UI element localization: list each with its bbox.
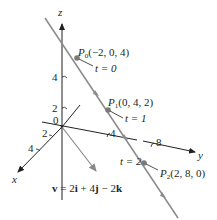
p1-label: P1(0, 4, 2) <box>108 97 153 110</box>
p0-t-label: t = 0 <box>95 63 116 74</box>
x-axis-label: x <box>12 174 17 185</box>
p0-label: P0(−2, 0, 4) <box>78 47 129 60</box>
z-tick-2: 2 <box>52 103 58 114</box>
point-p2 <box>141 160 147 166</box>
origin-label: 0 <box>53 115 59 126</box>
p2-t-label: t = 2 <box>120 156 141 167</box>
vector-v-arrow <box>62 127 96 171</box>
p2-label: P2(2, 8, 0) <box>160 168 205 181</box>
x-tick-2: 2 <box>42 128 48 139</box>
vector-v-label: v = 2i + 4j − 2k <box>52 183 122 194</box>
line-in-space-diagram: z x y 0 4 2 2 4 4 8 P0(−2, 0, 4) t = 0 P… <box>0 0 217 220</box>
z-axis-label: z <box>58 7 62 18</box>
y-axis-label: y <box>198 150 203 161</box>
p1-t-label: t = 1 <box>125 113 146 124</box>
y-tick-4: 4 <box>110 128 116 139</box>
x-tick-4: 4 <box>28 143 34 154</box>
y-axis <box>42 122 195 152</box>
z-tick-4: 4 <box>52 72 58 83</box>
y-tick-8: 8 <box>156 137 162 148</box>
